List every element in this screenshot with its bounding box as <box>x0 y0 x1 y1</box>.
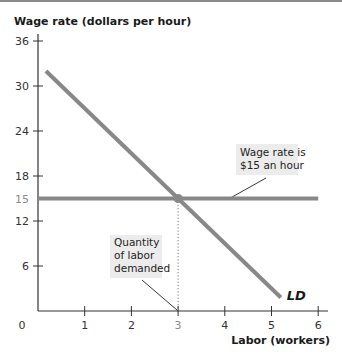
x-tick-label: 5 <box>268 319 275 332</box>
wage-annotation-text: Wage rate is <box>240 146 306 158</box>
quantity-annotation-text: demanded <box>114 262 170 274</box>
wage-annotation-text: $15 an hour <box>240 159 305 171</box>
y-tick-label: 36 <box>15 35 29 48</box>
quantity-annotation-leader <box>142 280 178 311</box>
equilibrium-point <box>174 194 183 203</box>
quantity-annotation-text: Quantity <box>114 236 159 248</box>
y-tick-label: 30 <box>15 80 29 93</box>
x-tick-label: 1 <box>81 319 88 332</box>
wage-annotation-leader <box>229 178 266 199</box>
x-tick-label: 0 <box>19 319 26 332</box>
quantity-annotation-text: of labor <box>114 249 155 261</box>
labor-demand-chart: Wage rate (dollars per hour) Labor (work… <box>0 0 342 359</box>
y-tick-label: 24 <box>15 125 29 138</box>
y-tick-label: 12 <box>15 215 29 228</box>
x-tick-label: 4 <box>221 319 228 332</box>
curve-label-ld: LD <box>287 288 306 303</box>
y-tick-label: 15 <box>15 193 29 206</box>
x-tick-label: 6 <box>315 319 322 332</box>
y-tick-label: 18 <box>15 170 29 183</box>
y-axis-title: Wage rate (dollars per hour) <box>14 15 191 28</box>
x-tick-label: 2 <box>128 319 135 332</box>
y-tick-label: 6 <box>22 260 29 273</box>
x-tick-label: 3 <box>175 319 182 332</box>
x-axis-title: Labor (workers) <box>231 334 330 347</box>
